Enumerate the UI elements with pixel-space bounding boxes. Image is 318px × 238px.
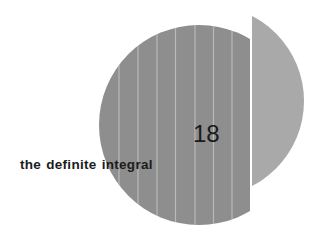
chapter-number: 18 [193,121,220,147]
split-disc-graphic [0,0,318,238]
chapter-title: the definite integral [20,157,153,173]
